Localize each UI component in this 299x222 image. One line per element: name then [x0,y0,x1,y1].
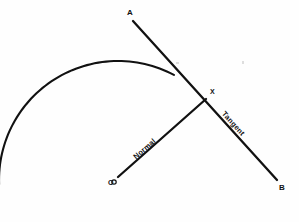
label-point-o: O [108,179,114,186]
normal-line [118,99,206,177]
circular-arc [0,61,174,184]
label-point-x: X [210,88,215,95]
scan-speck [176,62,179,64]
figure-canvas: A B X O Tangent Normal [0,0,299,222]
label-point-b: B [279,184,285,192]
geometry-diagram-svg [0,0,299,222]
label-point-a: A [127,9,133,17]
scan-speck [242,61,244,64]
